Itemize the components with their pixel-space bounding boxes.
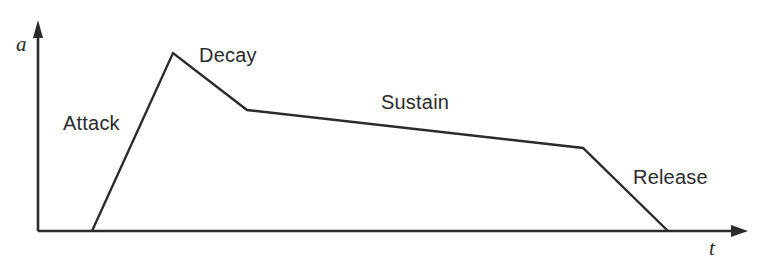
decay-label: Decay (199, 45, 257, 65)
release-label: Release (633, 167, 708, 187)
adsr-envelope-figure: Attack Decay Sustain Release a t (0, 0, 759, 273)
adsr-envelope-curve (92, 53, 668, 231)
envelope-plot (0, 0, 759, 273)
attack-label: Attack (63, 113, 120, 133)
time-axis-label: t (709, 238, 715, 259)
amplitude-axis-label: a (16, 34, 27, 55)
y-axis-arrowhead (33, 20, 43, 38)
sustain-label: Sustain (381, 92, 449, 112)
x-axis-arrowhead (731, 225, 748, 237)
